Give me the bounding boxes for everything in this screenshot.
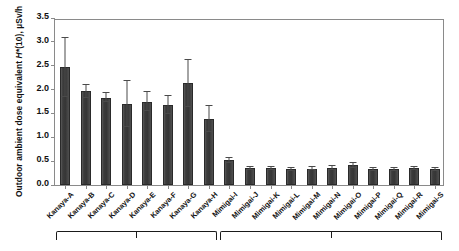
- x-axis-tick-mark: [271, 185, 272, 189]
- y-axis-tick-label: 1.0: [5, 130, 49, 140]
- error-bar-cap-lower: [370, 170, 377, 171]
- error-bar-cap-lower: [123, 126, 130, 127]
- error-bar-cap-upper: [411, 166, 418, 167]
- bar-slot[interactable]: [158, 20, 179, 185]
- group-bracket: [220, 231, 443, 240]
- error-bar-cap-lower: [164, 113, 171, 114]
- error-bar-cap-upper: [185, 59, 192, 60]
- bar-slot[interactable]: [55, 20, 76, 185]
- error-bar-cap-lower: [329, 169, 336, 170]
- bar[interactable]: [224, 160, 234, 185]
- bar-slot[interactable]: [342, 20, 363, 185]
- chart-figure: Outdoor ambient dose equivalent H*(10), …: [0, 0, 459, 251]
- x-axis-labels: Kanaya-AKanaya-BKanaya-CKanaya-DKanaya-E…: [54, 190, 444, 230]
- bar-slot[interactable]: [76, 20, 97, 185]
- error-bar-cap-upper: [123, 80, 130, 81]
- x-axis-tick-mark: [65, 185, 66, 189]
- bar[interactable]: [266, 168, 276, 185]
- bar[interactable]: [245, 168, 255, 185]
- bar-slot[interactable]: [281, 20, 302, 185]
- error-bar-cap-upper: [226, 157, 233, 158]
- bar-slot[interactable]: [199, 20, 220, 185]
- x-axis-tick-mark: [353, 185, 354, 189]
- x-axis-tick-mark: [332, 185, 333, 189]
- error-bar: [208, 106, 209, 132]
- x-axis-tick-mark: [168, 185, 169, 189]
- error-bar: [147, 92, 148, 111]
- bar-slot[interactable]: [117, 20, 138, 185]
- bar-slot[interactable]: [383, 20, 404, 185]
- error-bar-cap-lower: [288, 170, 295, 171]
- group-bracket: [56, 231, 217, 240]
- bar[interactable]: [163, 105, 173, 185]
- error-bar-cap-upper: [390, 167, 397, 168]
- bar-slot[interactable]: [363, 20, 384, 185]
- bar[interactable]: [389, 169, 399, 185]
- y-axis-tick-label: 3.5: [5, 11, 49, 21]
- error-bar-cap-lower: [185, 106, 192, 107]
- y-axis-title-symbol: H*: [14, 49, 24, 59]
- bar-series: [55, 20, 443, 185]
- y-axis-tick-label: 2.5: [5, 59, 49, 69]
- x-axis-tick-mark: [250, 185, 251, 189]
- bar-slot[interactable]: [219, 20, 240, 185]
- error-bar-cap-lower: [308, 169, 315, 170]
- bar[interactable]: [286, 169, 296, 185]
- bar[interactable]: [348, 165, 358, 185]
- y-axis-tick-mark: [51, 18, 55, 19]
- error-bar-cap-upper: [308, 166, 315, 167]
- error-bar-cap-upper: [329, 165, 336, 166]
- error-bar: [188, 60, 189, 108]
- x-axis-tick-mark: [373, 185, 374, 189]
- error-bar-cap-lower: [390, 170, 397, 171]
- bar-slot[interactable]: [404, 20, 425, 185]
- error-bar-cap-lower: [62, 96, 69, 97]
- error-bar: [167, 96, 168, 114]
- error-bar-cap-lower: [144, 110, 151, 111]
- y-axis-tick-label: 0.5: [5, 154, 49, 164]
- group-bracket-notch: [331, 232, 332, 238]
- bar-slot[interactable]: [240, 20, 261, 185]
- error-bar-cap-upper: [62, 37, 69, 38]
- bar[interactable]: [101, 98, 111, 185]
- bar-slot[interactable]: [301, 20, 322, 185]
- error-bar-cap-upper: [205, 105, 212, 106]
- bar[interactable]: [327, 168, 337, 185]
- bar-slot[interactable]: [96, 20, 117, 185]
- x-axis-tick-mark: [106, 185, 107, 189]
- bar-slot[interactable]: [260, 20, 281, 185]
- error-bar-cap-lower: [411, 169, 418, 170]
- error-bar-cap-lower: [349, 167, 356, 168]
- error-bar-cap-upper: [103, 92, 110, 93]
- error-bar-cap-lower: [82, 97, 89, 98]
- bar[interactable]: [142, 102, 152, 186]
- x-axis-tick-mark: [229, 185, 230, 189]
- error-bar-cap-upper: [288, 167, 295, 168]
- bar[interactable]: [307, 169, 317, 185]
- error-bar-cap-lower: [103, 101, 110, 102]
- error-bar-cap-lower: [267, 169, 274, 170]
- x-axis-tick-mark: [209, 185, 210, 189]
- bar[interactable]: [409, 168, 419, 185]
- bar[interactable]: [81, 91, 91, 185]
- x-axis-tick-mark: [414, 185, 415, 189]
- bar[interactable]: [368, 169, 378, 185]
- error-bar-cap-upper: [370, 167, 377, 168]
- error-bar-cap-upper: [431, 167, 438, 168]
- bar-slot[interactable]: [178, 20, 199, 185]
- error-bar: [65, 38, 66, 97]
- y-axis-tick-label: 1.5: [5, 106, 49, 116]
- bar[interactable]: [430, 169, 440, 185]
- plot-area: 0.00.51.01.52.02.53.03.5: [54, 19, 444, 186]
- error-bar-cap-upper: [349, 162, 356, 163]
- error-bar-cap-lower: [205, 131, 212, 132]
- bar-slot[interactable]: [322, 20, 343, 185]
- error-bar-cap-upper: [82, 84, 89, 85]
- bar-slot[interactable]: [424, 20, 445, 185]
- x-axis-tick-mark: [312, 185, 313, 189]
- x-axis-tick-mark: [291, 185, 292, 189]
- x-axis-tick-mark: [127, 185, 128, 189]
- y-axis-title-prefix: Outdoor ambient dose equivalent: [14, 58, 24, 197]
- bar-slot[interactable]: [137, 20, 158, 185]
- error-bar-cap-upper: [267, 166, 274, 167]
